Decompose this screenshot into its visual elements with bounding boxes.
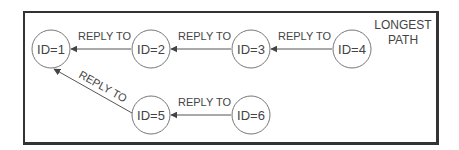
edge-label: REPLY TO	[78, 30, 131, 42]
node-id-3: ID=3	[232, 30, 270, 68]
edge-6-to-5: REPLY TO	[171, 96, 231, 115]
node-label: ID=4	[338, 42, 366, 57]
edge-5-to-1: REPLY TO	[54, 68, 132, 113]
node-label: ID=3	[237, 42, 265, 57]
longest-path-label: LONGEST PATH	[374, 18, 432, 47]
node-id-2: ID=2	[132, 30, 170, 68]
edge-label: REPLY TO	[278, 30, 331, 42]
node-id-1: ID=1	[32, 30, 70, 68]
reply-graph: REPLY TO REPLY TO REPLY TO REPLY TO REPL…	[0, 0, 459, 150]
node-label: ID=6	[237, 108, 265, 123]
edge-3-to-2: REPLY TO	[171, 30, 231, 49]
node-label: ID=5	[137, 108, 165, 123]
node-label: ID=1	[37, 42, 65, 57]
node-label: ID=2	[137, 42, 165, 57]
node-id-6: ID=6	[232, 96, 270, 134]
edge-2-to-1: REPLY TO	[71, 30, 131, 49]
edge-4-to-3: REPLY TO	[271, 30, 332, 49]
edge-label: REPLY TO	[178, 96, 231, 108]
node-id-4: ID=4	[333, 30, 371, 68]
title-line-1: LONGEST	[374, 18, 432, 32]
node-id-5: ID=5	[132, 96, 170, 134]
title-line-2: PATH	[388, 33, 418, 47]
edge-label: REPLY TO	[178, 30, 231, 42]
